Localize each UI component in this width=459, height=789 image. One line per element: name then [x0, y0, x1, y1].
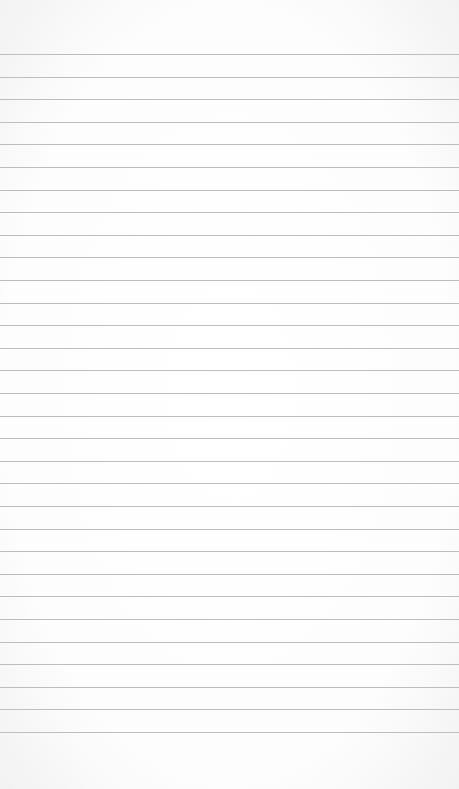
- ruled-line: [0, 77, 459, 78]
- ruled-line: [0, 393, 459, 394]
- ruled-line: [0, 280, 459, 281]
- ruled-line: [0, 54, 459, 55]
- ruled-line: [0, 574, 459, 575]
- ruled-line: [0, 167, 459, 168]
- ruled-line: [0, 687, 459, 688]
- ruled-line: [0, 709, 459, 710]
- ruled-line: [0, 303, 459, 304]
- ruled-line: [0, 506, 459, 507]
- ruled-line: [0, 596, 459, 597]
- ruled-line: [0, 212, 459, 213]
- ruled-line: [0, 619, 459, 620]
- ruled-line: [0, 370, 459, 371]
- ruled-line: [0, 529, 459, 530]
- lined-paper-page: [0, 0, 459, 789]
- ruled-line: [0, 438, 459, 439]
- ruled-line: [0, 190, 459, 191]
- ruled-line: [0, 461, 459, 462]
- ruled-line: [0, 664, 459, 665]
- ruled-line: [0, 325, 459, 326]
- ruled-line: [0, 642, 459, 643]
- ruled-line: [0, 348, 459, 349]
- ruled-line: [0, 483, 459, 484]
- ruled-line: [0, 235, 459, 236]
- ruled-line: [0, 144, 459, 145]
- ruled-line: [0, 551, 459, 552]
- ruled-line: [0, 257, 459, 258]
- ruled-line: [0, 416, 459, 417]
- ruled-line: [0, 99, 459, 100]
- ruled-line: [0, 732, 459, 733]
- ruled-line: [0, 122, 459, 123]
